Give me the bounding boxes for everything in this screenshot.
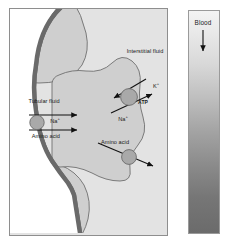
- label-amino-acid-apical: Amino acid: [28, 133, 60, 140]
- label-potassium-basolateral: K+: [149, 83, 163, 90]
- label-sodium-apical: Na+: [38, 118, 60, 125]
- label-blood: Blood: [179, 19, 227, 26]
- label-sodium-basolateral-charge: +: [125, 114, 127, 119]
- label-sodium-apical-text: Na: [50, 118, 57, 124]
- figure-root: Tubular fluid Interstitial fluid Na+ Ami…: [0, 0, 231, 243]
- cell-diagram-svg: [10, 9, 165, 233]
- amino-acid-efflux-transporter: [122, 150, 137, 165]
- label-sodium-apical-charge: +: [58, 116, 60, 121]
- label-potassium-basolateral-charge: +: [157, 81, 159, 86]
- label-sodium-basolateral: Na+: [114, 116, 132, 123]
- label-atp-pump: ATP: [133, 99, 153, 106]
- diagram-panel: Tubular fluid Interstitial fluid Na+ Ami…: [9, 8, 168, 236]
- label-amino-acid-cell: Amino acid: [97, 139, 133, 146]
- label-tubular-fluid: Tubular fluid: [24, 98, 64, 105]
- blood-flow-arrow-icon: [188, 28, 218, 56]
- label-interstitial-fluid: Interstitial fluid: [119, 48, 168, 55]
